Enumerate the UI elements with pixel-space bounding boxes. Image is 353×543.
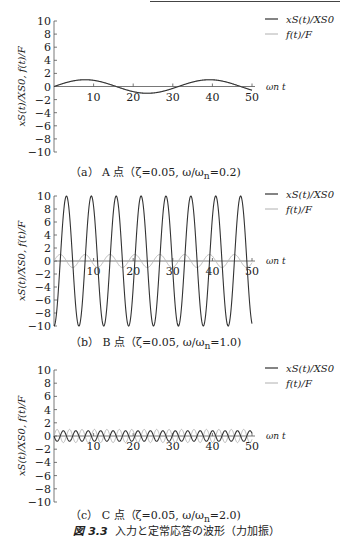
svg-text:40: 40	[205, 91, 219, 104]
svg-text:6: 6	[44, 216, 51, 229]
chart-c: 1086420−2−4−6−8−101020304050ωn txS(t)/XS…	[16, 363, 335, 509]
svg-text:30: 30	[166, 91, 180, 104]
svg-text:8: 8	[44, 28, 51, 41]
svg-text:−6: −6	[35, 470, 51, 483]
svg-text:−8: −8	[35, 483, 51, 496]
svg-text:−4: −4	[35, 281, 51, 294]
svg-text:−8: −8	[35, 307, 51, 320]
svg-text:−6: −6	[35, 294, 51, 307]
svg-text:20: 20	[126, 440, 140, 453]
legend: xS(t)/XS0f(t)/F	[265, 14, 335, 40]
svg-text:2: 2	[44, 67, 51, 80]
svg-text:2: 2	[44, 417, 51, 430]
svg-text:xS(t)/XS0, f(t)/F: xS(t)/XS0, f(t)/F	[16, 45, 27, 126]
svg-text:ωn t: ωn t	[266, 256, 286, 266]
svg-text:−4: −4	[35, 456, 51, 469]
svg-text:6: 6	[44, 390, 51, 403]
svg-text:−8: −8	[35, 133, 51, 146]
figure-caption: 図 3.3 入力と定常応答の波形（力加振）	[0, 522, 353, 538]
svg-text:f(t)/F: f(t)/F	[285, 29, 313, 40]
svg-text:−2: −2	[35, 268, 51, 281]
svg-text:xS(t)/XS0, f(t)/F: xS(t)/XS0, f(t)/F	[16, 220, 27, 301]
svg-text:40: 40	[205, 440, 219, 453]
svg-text:0: 0	[44, 255, 51, 268]
svg-text:0: 0	[44, 81, 51, 94]
svg-text:10: 10	[87, 91, 101, 104]
svg-text:10: 10	[37, 190, 51, 203]
svg-text:2: 2	[44, 242, 51, 255]
chart-a: 1086420−2−4−6−8−101020304050ωn txS(t)/XS…	[16, 14, 335, 159]
svg-text:xS(t)/XS0, f(t)/F: xS(t)/XS0, f(t)/F	[16, 395, 27, 476]
svg-text:f(t)/F: f(t)/F	[285, 204, 313, 215]
svg-text:ωn t: ωn t	[266, 82, 286, 92]
svg-text:10: 10	[37, 15, 51, 28]
svg-text:f(t)/F: f(t)/F	[285, 378, 313, 389]
svg-text:4: 4	[44, 54, 51, 67]
svg-text:4: 4	[44, 404, 51, 417]
svg-text:0: 0	[44, 430, 51, 443]
svg-text:30: 30	[166, 440, 180, 453]
caption-a: （a） A 点（ζ=0.05, ω/ωn=0.2)	[0, 163, 353, 181]
svg-text:8: 8	[44, 377, 51, 390]
legend: xS(t)/XS0f(t)/F	[265, 363, 335, 389]
svg-text:20: 20	[126, 265, 140, 278]
svg-text:50: 50	[245, 91, 259, 104]
svg-text:−10: −10	[28, 146, 51, 159]
caption-b: （b） B 点（ζ=0.05, ω/ωn=1.0)	[0, 333, 353, 351]
svg-text:6: 6	[44, 41, 51, 54]
svg-text:−2: −2	[35, 94, 51, 107]
svg-text:4: 4	[44, 229, 51, 242]
svg-text:8: 8	[44, 203, 51, 216]
svg-text:−6: −6	[35, 120, 51, 133]
chart-canvas: 1086420−2−4−6−8−101020304050ωn txS(t)/XS…	[0, 0, 353, 543]
svg-text:−2: −2	[35, 443, 51, 456]
svg-text:−10: −10	[28, 320, 51, 333]
legend: xS(t)/XS0f(t)/F	[265, 189, 335, 215]
svg-text:xS(t)/XS0: xS(t)/XS0	[286, 14, 335, 25]
svg-text:10: 10	[37, 364, 51, 377]
svg-text:40: 40	[205, 265, 219, 278]
svg-text:xS(t)/XS0: xS(t)/XS0	[286, 189, 335, 200]
chart-b: 1086420−2−4−6−8−101020304050ωn txS(t)/XS…	[16, 189, 335, 333]
svg-text:−4: −4	[35, 107, 51, 120]
svg-text:50: 50	[245, 440, 259, 453]
svg-text:ωn t: ωn t	[266, 431, 286, 441]
svg-text:xS(t)/XS0: xS(t)/XS0	[286, 363, 335, 374]
